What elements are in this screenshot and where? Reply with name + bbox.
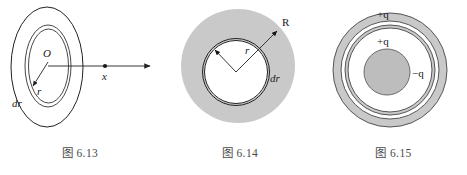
figure-6-14-caption: 图 6.14 bbox=[160, 144, 320, 160]
radius-label: r bbox=[37, 85, 42, 97]
axis-point-label: x bbox=[101, 70, 107, 82]
ring-radius-label: r bbox=[245, 44, 250, 56]
figure-6-15-drawing: +q +q −q bbox=[320, 0, 467, 145]
inner-core bbox=[364, 49, 410, 95]
center-label: O bbox=[43, 47, 51, 59]
thickness-label: dr bbox=[12, 97, 23, 109]
outer-radius-label: R bbox=[282, 16, 290, 28]
figure-6-15-caption: 图 6.15 bbox=[320, 144, 467, 160]
outer-shell-charge-label: +q bbox=[377, 8, 389, 20]
figure-6-14: R r dr 图 6.14 bbox=[160, 0, 320, 175]
ring-thickness-label: dr bbox=[270, 72, 281, 84]
radius-arrow bbox=[33, 62, 48, 86]
figure-6-13-caption: 图 6.13 bbox=[0, 144, 160, 160]
core-charge-label: −q bbox=[412, 67, 424, 79]
figure-row: O r dr x 图 6.13 bbox=[0, 0, 467, 175]
figure-6-14-drawing: R r dr bbox=[160, 0, 320, 145]
figure-6-15: +q +q −q 图 6.15 bbox=[320, 0, 467, 175]
figure-6-13: O r dr x 图 6.13 bbox=[0, 0, 160, 175]
middle-shell-charge-label: +q bbox=[377, 35, 389, 47]
axis-point-marker bbox=[103, 64, 107, 68]
figure-6-13-drawing: O r dr x bbox=[0, 0, 160, 145]
